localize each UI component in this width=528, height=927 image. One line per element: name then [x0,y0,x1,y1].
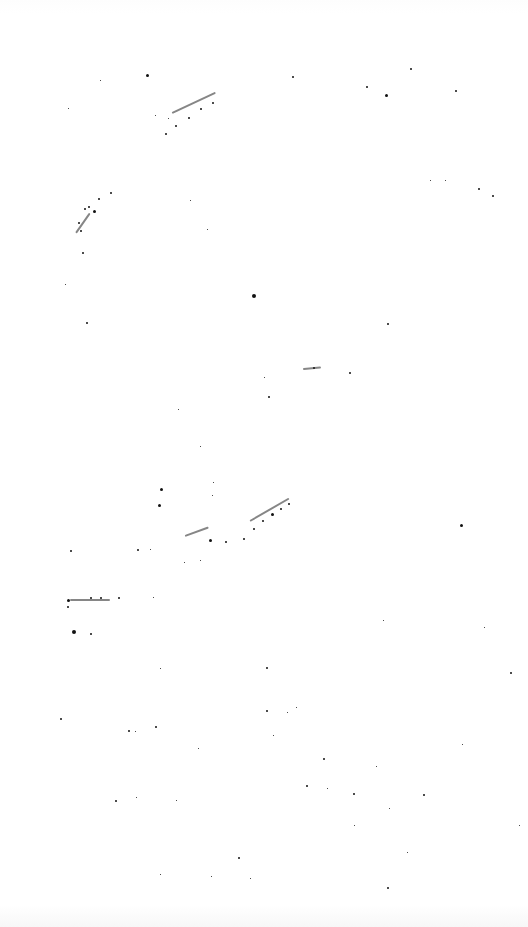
speck [72,630,76,634]
speck [65,284,66,285]
speck [168,118,169,119]
speck [88,206,90,208]
speck [407,852,408,853]
speck [323,758,325,760]
speck [445,180,446,181]
speck [153,597,154,598]
speck [188,117,190,119]
speck [68,108,69,109]
speck [158,504,161,507]
speck [423,794,425,796]
speck [478,188,480,190]
speck [460,524,463,527]
streak [185,527,209,537]
speck [82,252,84,254]
speck [519,825,520,826]
streak [172,92,216,114]
speck [110,192,112,194]
speck [118,597,120,599]
speck [135,731,136,732]
speck [366,86,368,88]
speck [198,748,199,749]
speck [484,627,485,628]
speck [150,549,151,550]
speck [430,180,431,181]
streak [70,599,110,601]
speck [155,115,156,116]
speck [389,808,390,809]
speck [146,74,149,77]
speck [93,210,96,213]
speck [176,800,177,801]
speck [262,520,264,522]
speck [136,797,137,798]
speck [212,102,214,104]
speck [266,710,268,712]
speck [200,560,201,561]
speck [510,672,512,674]
speck [349,372,351,374]
speck [252,294,256,298]
speck [128,730,130,732]
speck [268,396,270,398]
speck [165,133,167,135]
speck [492,195,494,197]
speck [200,446,201,447]
speck [243,538,245,540]
speck [410,68,412,70]
speck [287,712,288,713]
speck [86,322,88,324]
speck [387,887,389,889]
speck [70,550,72,552]
speck [60,718,62,720]
speck [200,108,202,110]
blank-speckled-image [0,0,528,927]
speck [115,800,117,802]
speck [250,878,251,879]
speck [184,562,185,563]
speck [212,495,213,496]
speck [90,633,92,635]
speck [306,785,308,787]
speck [98,198,100,200]
speck [209,539,212,542]
speck [160,668,161,669]
speck [376,766,377,767]
speck [462,744,463,745]
speck [354,825,355,826]
speck [273,735,274,736]
speck [253,528,255,530]
speck [84,208,86,210]
speck [80,230,82,232]
speck [387,323,389,325]
speck [211,876,212,877]
speck [271,513,274,516]
speck [264,377,265,378]
speck [296,707,297,708]
speck [160,874,161,875]
speck [280,508,282,510]
speck [292,76,294,78]
speck [175,125,177,127]
speck [327,788,328,789]
speck [455,90,457,92]
speck [353,793,355,795]
speck [190,200,191,201]
speck [383,620,384,621]
speck [137,549,139,551]
speck [225,541,227,543]
speck [100,80,101,81]
speck [288,503,290,505]
speck [178,409,179,410]
speck [155,726,157,728]
speck [385,94,388,97]
speck [207,229,208,230]
speck [160,488,163,491]
streak [303,366,321,370]
speck [266,667,268,669]
speck [238,857,240,859]
speck [67,606,69,608]
speck [213,482,214,483]
streak [250,498,290,522]
